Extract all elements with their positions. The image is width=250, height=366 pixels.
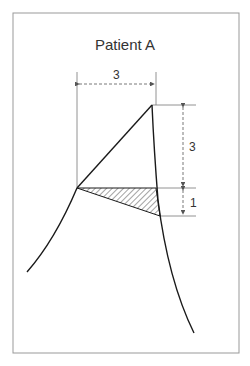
vertical-upper-dimension-label: 3	[189, 140, 196, 154]
horizontal-dimension-label: 3	[113, 68, 120, 82]
right-curve	[152, 105, 194, 333]
diagram-canvas	[0, 0, 250, 366]
vertical-lower-dimension-label: 1	[190, 196, 197, 210]
hatched-triangle	[77, 188, 160, 216]
left-curve	[27, 188, 77, 272]
figure-frame	[13, 13, 239, 353]
triangle-edge-left	[77, 105, 152, 188]
diagram-title: Patient A	[0, 36, 250, 53]
